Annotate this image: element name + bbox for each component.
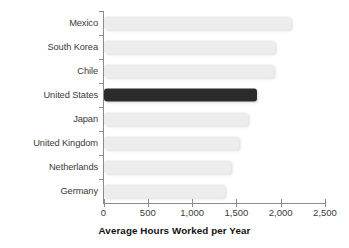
category-label: Mexico	[69, 18, 98, 28]
bar[interactable]	[104, 185, 225, 198]
category-label: United Kingdom	[33, 138, 98, 148]
bar[interactable]	[104, 89, 257, 102]
bar[interactable]	[104, 137, 239, 150]
x-axis-tick	[236, 199, 237, 207]
category-label: United States	[43, 90, 98, 100]
category-label: Japan	[73, 114, 98, 124]
y-axis-tick	[99, 107, 104, 108]
x-axis-tick	[148, 199, 149, 207]
y-axis-tick	[99, 155, 104, 156]
category-label: Chile	[77, 66, 98, 76]
y-axis-tick	[99, 83, 104, 84]
category-label: Netherlands	[49, 162, 98, 172]
bar-chart: MexicoSouth KoreaChileUnited StatesJapan…	[0, 0, 349, 248]
table-row: Germany	[0, 179, 349, 203]
bar[interactable]	[104, 41, 275, 54]
x-axis-tick-label: 0	[101, 207, 106, 218]
table-row: United States	[0, 83, 349, 107]
plot-area: MexicoSouth KoreaChileUnited StatesJapan…	[0, 0, 349, 248]
bar[interactable]	[104, 17, 291, 30]
bar-container	[104, 113, 248, 126]
bar-rows: MexicoSouth KoreaChileUnited StatesJapan…	[0, 11, 349, 203]
table-row: Netherlands	[0, 155, 349, 179]
bar-container	[104, 89, 257, 102]
x-axis-title: Average Hours Worked per Year	[0, 225, 349, 236]
table-row: South Korea	[0, 35, 349, 59]
bar-container	[104, 185, 225, 198]
x-axis-tick-label: 1,000	[180, 207, 204, 218]
bar[interactable]	[104, 65, 274, 78]
table-row: Chile	[0, 59, 349, 83]
y-axis-tick	[99, 11, 104, 12]
category-label: Germany	[60, 186, 98, 196]
x-axis-tick	[325, 199, 326, 207]
x-axis-tick-label: 1,500	[225, 207, 249, 218]
x-axis-tick	[192, 199, 193, 207]
x-axis-tick	[281, 199, 282, 207]
bar-container	[104, 65, 274, 78]
bar-container	[104, 161, 231, 174]
x-axis-tick-label: 2,500	[313, 207, 337, 218]
x-axis-line	[103, 203, 326, 204]
x-axis-tick-label: 500	[140, 207, 156, 218]
y-axis-tick	[99, 131, 104, 132]
y-axis-tick	[99, 35, 104, 36]
bar-container	[104, 17, 291, 30]
y-axis-tick	[99, 179, 104, 180]
table-row: Mexico	[0, 11, 349, 35]
bar-container	[104, 41, 275, 54]
bar-container	[104, 137, 239, 150]
category-label: South Korea	[47, 42, 98, 52]
bar[interactable]	[104, 113, 248, 126]
bar[interactable]	[104, 161, 231, 174]
table-row: United Kingdom	[0, 131, 349, 155]
table-row: Japan	[0, 107, 349, 131]
y-axis-tick	[99, 59, 104, 60]
x-axis-tick-label: 2,000	[269, 207, 293, 218]
x-axis-tick	[104, 199, 105, 207]
